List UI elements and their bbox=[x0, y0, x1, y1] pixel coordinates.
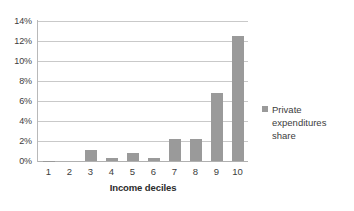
x-axis-tick-label: 9 bbox=[206, 166, 227, 177]
y-axis-tick-label: 10% bbox=[14, 57, 32, 66]
bar[interactable] bbox=[43, 161, 55, 162]
bar-chart: 0%2%4%6%8%10%12%14% 12345678910 Income d… bbox=[0, 0, 354, 211]
x-axis-tick-label: 3 bbox=[80, 166, 101, 177]
bar[interactable] bbox=[211, 93, 223, 161]
bar-slot bbox=[143, 21, 164, 161]
x-axis-tick-label: 5 bbox=[122, 166, 143, 177]
bar-series-private-expenditures-share bbox=[38, 21, 248, 161]
y-axis-tick-label: 2% bbox=[19, 137, 32, 146]
x-axis-tick-label: 1 bbox=[38, 166, 59, 177]
y-axis-tick-label: 4% bbox=[19, 117, 32, 126]
x-axis-tick-labels: 12345678910 bbox=[38, 166, 248, 180]
legend-label-private-expenditures-share: Private expenditures share bbox=[272, 103, 350, 142]
bar-slot bbox=[227, 21, 248, 161]
bar-slot bbox=[59, 21, 80, 161]
bar-slot bbox=[185, 21, 206, 161]
bar-slot bbox=[164, 21, 185, 161]
bar-slot bbox=[206, 21, 227, 161]
x-axis-tick-label: 4 bbox=[101, 166, 122, 177]
x-axis-tick-label: 2 bbox=[59, 166, 80, 177]
y-axis-tick-labels: 0%2%4%6%8%10%12%14% bbox=[0, 0, 34, 211]
x-axis-title: Income deciles bbox=[38, 182, 248, 193]
bar[interactable] bbox=[127, 153, 139, 161]
bar[interactable] bbox=[148, 158, 160, 161]
bar[interactable] bbox=[232, 36, 244, 161]
x-axis-tick-label: 8 bbox=[185, 166, 206, 177]
y-axis-tick-label: 8% bbox=[19, 77, 32, 86]
bar-slot bbox=[122, 21, 143, 161]
bar[interactable] bbox=[106, 158, 118, 161]
y-axis-tick-label: 6% bbox=[19, 97, 32, 106]
x-axis-tick-label: 10 bbox=[227, 166, 248, 177]
plot-area bbox=[38, 21, 248, 161]
bar-slot bbox=[101, 21, 122, 161]
bar[interactable] bbox=[85, 150, 97, 161]
bar[interactable] bbox=[169, 139, 181, 161]
legend-swatch-private-expenditures-share bbox=[262, 106, 268, 112]
y-axis-tick-label: 14% bbox=[14, 17, 32, 26]
bar-slot bbox=[38, 21, 59, 161]
bar-slot bbox=[80, 21, 101, 161]
axis-baseline bbox=[38, 161, 248, 162]
y-axis-tick-label: 12% bbox=[14, 37, 32, 46]
x-axis-tick-label: 7 bbox=[164, 166, 185, 177]
x-axis-tick-label: 6 bbox=[143, 166, 164, 177]
bar[interactable] bbox=[190, 139, 202, 162]
y-axis-tick-label: 0% bbox=[19, 157, 32, 166]
